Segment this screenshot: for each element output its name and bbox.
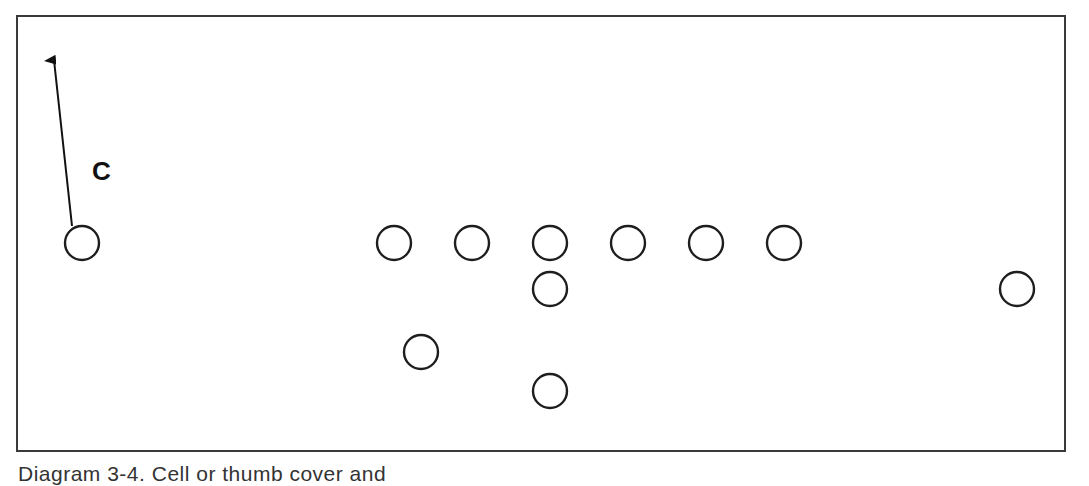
player-circle-line-1	[377, 226, 411, 260]
player-circle-line-4	[611, 226, 645, 260]
player-circle-center-back	[533, 272, 567, 306]
player-circle-wide-right	[1000, 272, 1034, 306]
player-circle-line-2	[455, 226, 489, 260]
player-circle-line-3	[533, 226, 567, 260]
route-arrow	[54, 60, 72, 226]
player-circle-corner-left	[65, 226, 99, 260]
figure-caption: Diagram 3-4. Cell or thumb cover and	[18, 462, 386, 486]
player-circle-back-left	[404, 335, 438, 369]
player-circle-deep-back	[533, 374, 567, 408]
player-circle-line-6	[767, 226, 801, 260]
player-label-c: C	[92, 156, 111, 186]
player-circle-line-5	[689, 226, 723, 260]
